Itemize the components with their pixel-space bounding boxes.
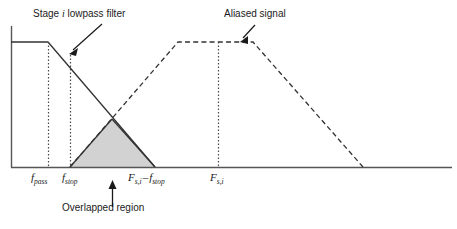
axis-label-fpass: fpass bbox=[31, 172, 47, 183]
aliased-signal-label: Aliased signal bbox=[224, 9, 286, 19]
aliased-label-arrow bbox=[240, 25, 255, 44]
axis-label-fs: Fs,i bbox=[210, 172, 224, 183]
filter-label-arrow bbox=[69, 24, 102, 56]
signal-aliasing-diagram: Stage i lowpass filter Aliased signal Ov… bbox=[0, 0, 457, 229]
axis-label-fs-minus-fstop: Fs,i–fstop bbox=[128, 172, 165, 183]
axis-label-fstop: fstop bbox=[62, 172, 78, 183]
filter-label-prefix: Stage bbox=[33, 8, 62, 19]
diagram-canvas bbox=[0, 0, 457, 229]
filter-label: Stage i lowpass filter bbox=[33, 9, 125, 19]
overlapped-region-shape bbox=[70, 119, 155, 167]
overlapped-region-label: Overlapped region bbox=[62, 203, 144, 213]
filter-label-suffix: lowpass filter bbox=[65, 8, 126, 19]
